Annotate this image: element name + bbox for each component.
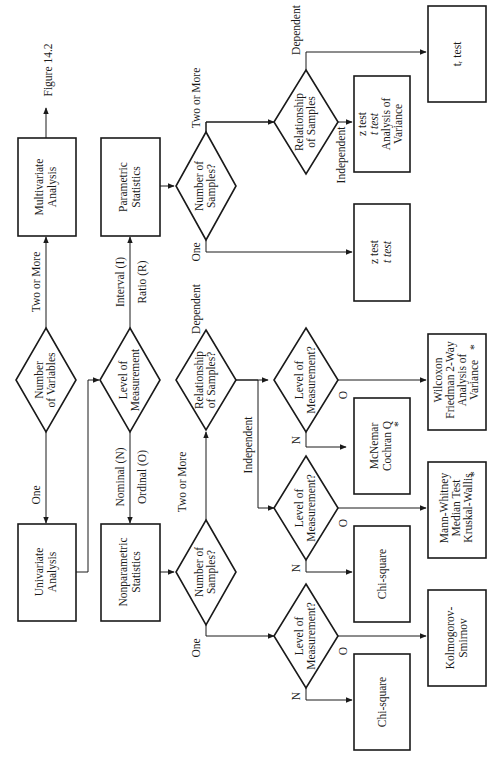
chi-square-one-box: Chi-square <box>354 654 410 750</box>
edge-label-one-o: O <box>337 647 349 655</box>
mann-whitney-line-2: Median Test <box>450 479 462 537</box>
multivariate-label-1: Multivariate <box>33 159 45 216</box>
mcnemar-line-2: Cochran Q <box>381 420 393 471</box>
edge-label-dep-o: O <box>337 391 349 399</box>
edge-param-one <box>206 240 352 252</box>
chi-square-independent-box: Chi-square <box>354 526 410 622</box>
level-one-label-2: Measurement? <box>305 602 317 670</box>
level-indep-label-1: Level of <box>293 489 305 528</box>
wilcoxon-line-1: Wilcoxon <box>432 357 444 402</box>
number-of-variables-diamond: Number of Variables <box>16 328 76 432</box>
statistical-test-flowchart: Multivariate Analysis Figure 14.2 Number… <box>0 0 493 761</box>
nonparametric-label-2: Statistics <box>130 551 142 593</box>
level-of-measurement-diamond: Level of Measurement <box>100 328 160 432</box>
parametric-label-1: Parametric <box>117 162 129 212</box>
mcnemar-asterisk: * <box>392 421 404 427</box>
univariate-label-1: Univariate <box>33 548 45 597</box>
edge-label-np-independent: Independent <box>242 416 255 474</box>
level-indep-label-2: Measurement? <box>305 474 317 542</box>
one-result-line-1: z test <box>368 239 380 264</box>
indep-result-line-1: z test <box>356 111 368 136</box>
wilcoxon-line-4: Variance <box>468 360 480 400</box>
mann-whitney-asterisk: * <box>468 471 480 477</box>
multivariate-label-2: Analysis <box>46 166 59 207</box>
parametric-statistics-box: Parametric Statistics <box>101 138 160 236</box>
edge-label-indep-n: N <box>290 563 302 572</box>
mann-whitney-box: Mann-Whitney Median Test Kruskal-Wallis … <box>428 462 486 558</box>
wilcoxon-asterisk: * <box>468 344 480 350</box>
edge-label-np-two-or-more: Two or More <box>176 452 188 513</box>
np-relationship-label-2: of Samples? <box>205 352 218 409</box>
param-one-result-box: z test t test <box>354 204 410 301</box>
kolmogorov-line-2: Smirnov <box>457 618 469 658</box>
edge-label-param-one: One <box>190 242 202 261</box>
edge-label-ordinal: Ordinal (O) <box>136 450 149 504</box>
edge-param-two-or-more <box>206 122 272 132</box>
chisq-one-line-1: Chi-square <box>376 677 389 727</box>
np-samples-label-2: Samples? <box>205 550 218 594</box>
num-variables-label-1: Number <box>33 361 45 399</box>
mcnemar-line-1: McNemar <box>368 423 380 470</box>
edge-indep-n <box>306 560 352 572</box>
multivariate-box: Multivariate Analysis <box>18 138 76 236</box>
level-one-diamond: Level of Measurement? <box>274 584 338 688</box>
edge-univariate-to-level <box>76 380 99 572</box>
edge-np-one <box>206 625 274 636</box>
param-independent-result-box: z test t test Analysis of Variance <box>354 76 410 172</box>
param-samples-label-1: Number of <box>193 161 205 211</box>
level-main-label-2: Measurement <box>129 348 141 411</box>
level-independent-diamond: Level of Measurement? <box>274 456 338 560</box>
edge-label-ratio: Ratio (R) <box>136 260 149 303</box>
level-dependent-diamond: Level of Measurement? <box>274 328 338 432</box>
edge-label-one-n: N <box>290 691 302 700</box>
np-samples-label-1: Number of <box>193 547 205 597</box>
figure-ref-label: Figure 14.2 <box>42 43 55 96</box>
param-dependent-result-box: tᵣ test <box>428 6 486 102</box>
nonparametric-label-1: Nonparametric <box>117 538 130 607</box>
kolmogorov-line-1: Kolmogorov- <box>444 607 457 670</box>
edge-label-one-var: One <box>30 485 42 504</box>
level-dep-label-1: Level of <box>293 361 305 400</box>
univariate-label-2: Analysis <box>46 551 59 592</box>
univariate-box: Univariate Analysis <box>18 524 76 621</box>
wilcoxon-box: Wilcoxon Friedman 2-Way Analysis of Vari… <box>428 334 486 430</box>
edge-label-dep-n: N <box>290 435 302 444</box>
num-variables-label-2: of Variables <box>45 352 57 408</box>
mcnemar-box: McNemar Cochran Q * <box>354 398 410 494</box>
edge-one-n <box>306 688 352 700</box>
level-dep-label-2: Measurement? <box>305 346 317 414</box>
edge-label-param-dependent: Dependent <box>290 4 303 55</box>
edge-label-param-two-or-more: Two or More <box>190 68 202 129</box>
kolmogorov-smirnov-box: Kolmogorov- Smirnov <box>428 590 486 686</box>
level-main-label-1: Level of <box>117 361 129 400</box>
param-relationship-label-2: of Samples <box>305 96 318 148</box>
parametric-label-2: Statistics <box>130 166 142 208</box>
edge-param-dependent <box>306 52 426 70</box>
mann-whitney-line-3: Kruskal-Wallis <box>462 473 474 543</box>
one-result-line-2: t test <box>381 240 393 263</box>
edge-label-np-one: One <box>190 638 202 657</box>
edge-label-two-or-more-vars: Two or More <box>30 252 42 313</box>
dep-result-line-1: tᵣ test <box>451 41 463 66</box>
edge-label-interval: Interval (I) <box>114 257 127 307</box>
chisq-indep-line-1: Chi-square <box>376 549 389 599</box>
param-relationship-diamond: Relationship of Samples <box>274 70 338 174</box>
nonparametric-statistics-box: Nonparametric Statistics <box>101 524 160 621</box>
param-number-of-samples-diamond: Number of Samples? <box>176 132 236 240</box>
param-samples-label-2: Samples? <box>205 164 218 208</box>
edge-label-np-dependent: Dependent <box>190 283 203 334</box>
edge-label-param-independent: Independent <box>335 126 348 184</box>
np-number-of-samples-diamond: Number of Samples? <box>176 520 236 625</box>
indep-result-line-2: t test <box>368 112 380 135</box>
edge-dep-n <box>306 432 346 447</box>
np-relationship-diamond: Relationship of Samples? <box>176 330 236 430</box>
level-one-label-1: Level of <box>293 617 305 656</box>
edge-label-nominal: Nominal (N) <box>114 447 127 506</box>
indep-result-line-4: Variance <box>392 104 404 144</box>
edge-label-indep-o: O <box>337 519 349 527</box>
